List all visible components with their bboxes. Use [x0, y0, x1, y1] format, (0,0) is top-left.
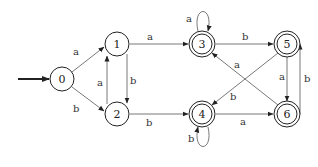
- svg-text:b: b: [188, 133, 194, 144]
- state-2: 2: [105, 102, 129, 126]
- svg-text:5: 5: [284, 38, 291, 51]
- edge-0-2: b: [72, 87, 104, 114]
- svg-text:a: a: [147, 31, 153, 42]
- edge-5-6: a: [279, 57, 287, 101]
- svg-text:2: 2: [114, 108, 121, 121]
- svg-text:1: 1: [114, 38, 121, 51]
- state-3: 3: [189, 31, 215, 57]
- svg-text:0: 0: [59, 73, 66, 86]
- state-1: 1: [105, 32, 129, 56]
- svg-text:4: 4: [199, 108, 206, 121]
- state-6: 6: [274, 101, 300, 127]
- edge-3-3: a: [186, 12, 209, 32]
- edge-0-1: a: [72, 46, 104, 72]
- svg-text:b: b: [230, 91, 236, 102]
- edge-2-4: b: [130, 114, 188, 128]
- svg-text:b: b: [304, 73, 310, 84]
- svg-text:3: 3: [199, 38, 206, 51]
- svg-text:a: a: [73, 46, 79, 57]
- svg-text:6: 6: [284, 108, 291, 121]
- edge-3-5: b: [216, 31, 273, 44]
- edge-6-5: b: [299, 44, 310, 114]
- svg-text:a: a: [186, 13, 192, 24]
- state-5: 5: [274, 31, 300, 57]
- svg-text:a: a: [234, 59, 240, 70]
- state-4: 4: [189, 101, 215, 127]
- svg-text:b: b: [146, 117, 152, 128]
- edge-4-6: a: [216, 114, 273, 127]
- svg-text:a: a: [97, 77, 103, 88]
- state-0: 0: [50, 67, 74, 91]
- svg-text:a: a: [240, 116, 246, 127]
- svg-text:b: b: [242, 31, 248, 42]
- dfa-diagram: a b a b a b a b b a a b: [0, 0, 318, 167]
- edge-1-2: b: [127, 54, 136, 103]
- svg-text:b: b: [73, 103, 79, 114]
- edge-1-3: a: [130, 31, 188, 44]
- svg-text:a: a: [279, 71, 285, 82]
- svg-text:b: b: [130, 75, 136, 86]
- edge-2-1: a: [97, 56, 107, 104]
- edge-4-4: b: [188, 127, 209, 147]
